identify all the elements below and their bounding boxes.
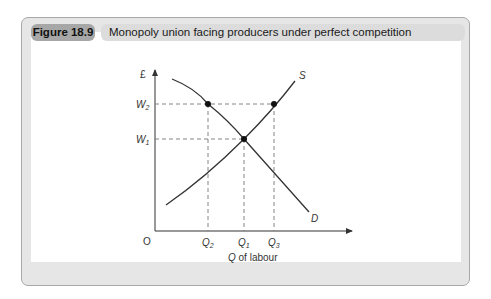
point-equilibrium [241,136,247,142]
x-axis-label: Q of labour [228,252,278,263]
origin-label: O [143,236,151,247]
y-axis-label: £ [140,69,146,80]
point-w2-q2 [205,101,211,107]
supply-demand-diagram: £ W2 W1 O Q2 Q1 Q3 Q of labour S D [0,0,491,299]
tick-w2: W2 [136,99,149,111]
tick-q2: Q2 [202,237,214,249]
point-w2-q3 [271,101,277,107]
tick-q3: Q3 [268,237,280,249]
tick-w1: W1 [136,134,149,146]
demand-curve [172,79,309,212]
supply-curve [166,81,295,205]
demand-label: D [311,213,318,224]
supply-label: S [299,70,306,81]
tick-q1: Q1 [238,237,250,249]
